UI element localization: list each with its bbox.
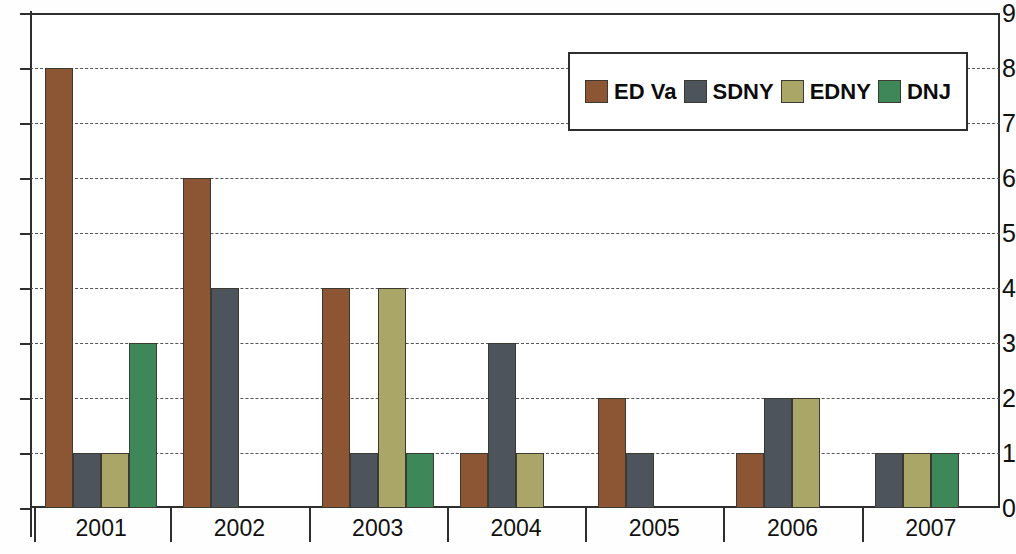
bar-2004-ed-va: [460, 453, 488, 508]
bar-2001-edny: [101, 453, 129, 508]
bar-2007-dnj: [931, 453, 959, 508]
y-axis-tick: [20, 68, 31, 70]
y-axis-label: 4: [994, 276, 1016, 301]
bar-chart: 0123456789 2001200220032004200520062007 …: [0, 0, 1016, 554]
y-axis-tick: [20, 233, 31, 235]
gridline: [30, 178, 1000, 179]
legend-swatch-ed-va: [585, 80, 608, 103]
y-axis-label: 9: [994, 1, 1016, 26]
legend-label-sdny: SDNY: [713, 81, 774, 103]
y-axis-label: 8: [994, 56, 1016, 81]
legend-swatch-edny: [781, 80, 804, 103]
bar-2003-sdny: [350, 453, 378, 508]
legend-swatch-dnj: [878, 80, 901, 103]
legend-item: DNJ: [878, 80, 951, 103]
bar-2006-sdny: [764, 398, 792, 508]
bar-2007-edny: [903, 453, 931, 508]
legend-swatch-sdny: [684, 80, 707, 103]
y-axis-tick: [20, 453, 31, 455]
x-axis-label: 2003: [309, 515, 447, 543]
bar-2002-ed-va: [183, 178, 211, 508]
x-axis-label: 2007: [862, 515, 1000, 543]
y-axis-tick: [20, 288, 31, 290]
bar-2003-dnj: [406, 453, 434, 508]
x-axis-label: 2002: [170, 515, 308, 543]
legend-item: ED Va: [585, 80, 676, 103]
gridline: [30, 233, 1000, 234]
y-axis-label: 7: [994, 111, 1016, 136]
y-axis-tick: [20, 398, 31, 400]
bar-2003-ed-va: [322, 288, 350, 508]
y-axis-tick: [20, 343, 31, 345]
y-axis-line: [30, 11, 32, 537]
bar-2006-edny: [792, 398, 820, 508]
bar-2007-sdny: [875, 453, 903, 508]
y-axis-label: 5: [994, 221, 1016, 246]
legend: ED Va SDNY EDNY DNJ: [568, 52, 968, 131]
bar-2004-edny: [516, 453, 544, 508]
bar-2002-sdny: [211, 288, 239, 508]
y-axis-label: 1: [994, 441, 1016, 466]
x-axis-label: 2004: [447, 515, 585, 543]
bar-2001-ed-va: [45, 68, 73, 508]
bar-2005-sdny: [626, 453, 654, 508]
legend-item: SDNY: [684, 80, 774, 103]
x-axis-label: 2006: [723, 515, 861, 543]
bar-2005-ed-va: [598, 398, 626, 508]
legend-label-edny: EDNY: [810, 81, 871, 103]
bar-2001-dnj: [129, 343, 157, 508]
y-axis-label: 3: [994, 331, 1016, 356]
bar-2006-ed-va: [736, 453, 764, 508]
bar-2003-edny: [378, 288, 406, 508]
legend-label-dnj: DNJ: [907, 81, 951, 103]
y-axis-tick: [20, 508, 31, 510]
bar-2001-sdny: [73, 453, 101, 508]
y-axis-tick: [20, 123, 31, 125]
y-axis-label: 2: [994, 386, 1016, 411]
y-axis-label: 6: [994, 166, 1016, 191]
legend-label-ed-va: ED Va: [614, 81, 676, 103]
gridline: [30, 288, 1000, 289]
bar-2004-sdny: [488, 343, 516, 508]
x-axis-label: 2001: [32, 515, 170, 543]
y-axis-tick: [20, 13, 31, 15]
x-axis-label: 2005: [585, 515, 723, 543]
legend-item: EDNY: [781, 80, 871, 103]
y-axis-tick: [20, 178, 31, 180]
